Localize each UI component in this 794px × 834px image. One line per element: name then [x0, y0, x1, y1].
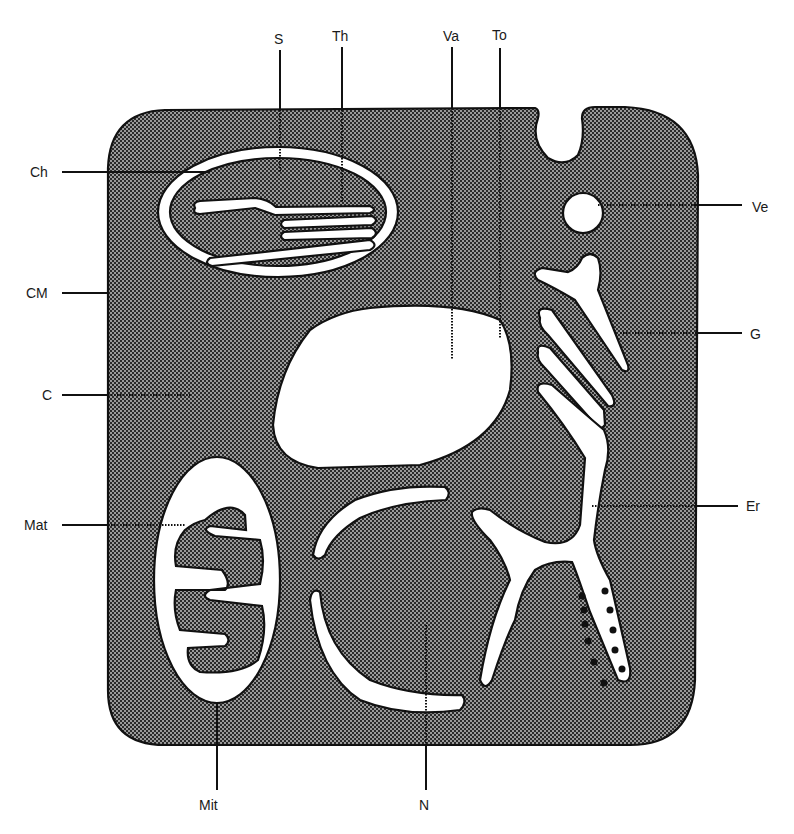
label-er: Er [746, 498, 760, 514]
label-mitochondrion: Mit [199, 797, 218, 813]
label-matrix: Mat [24, 517, 47, 533]
label-cell-membrane: CM [26, 285, 48, 301]
mitochondrion [154, 457, 280, 703]
chloroplast [158, 147, 398, 277]
label-cytoplasm: C [42, 387, 52, 403]
label-golgi: G [750, 326, 761, 342]
label-nucleus: N [419, 797, 429, 813]
label-tonoplast: To [492, 27, 507, 43]
vesicle [563, 193, 603, 233]
label-chloroplast: Ch [30, 164, 48, 180]
label-vesicle: Ve [752, 199, 769, 215]
label-vacuole: Va [443, 28, 459, 44]
label-stroma: S [274, 31, 283, 47]
label-thylakoid: Th [332, 28, 348, 44]
cell-diagram: S Th Va To Ch Ve CM G C Mat Er Mit N [0, 0, 794, 834]
